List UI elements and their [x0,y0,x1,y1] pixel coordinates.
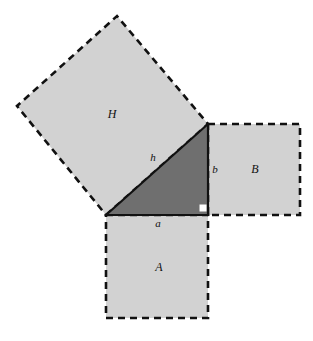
square-a-label: A [154,260,163,274]
diagram-canvas: H B A h b a [0,0,313,341]
side-h-label: h [150,151,156,163]
square-h-label: H [107,107,118,121]
square-b-label: B [251,162,259,176]
pythagorean-diagram: H B A h b a [0,0,313,341]
side-b-label: b [212,163,218,175]
side-a-label: a [155,217,161,229]
right-angle-marker-icon [200,205,207,212]
